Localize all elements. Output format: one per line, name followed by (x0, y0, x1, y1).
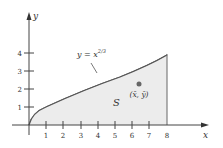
plot: 1 2 3 4 5 6 7 8 1 2 3 4 y x y = x2/3 S (… (0, 0, 223, 148)
svg-text:3: 3 (18, 68, 22, 76)
y-tick-labels: 1 2 3 4 (18, 50, 23, 112)
svg-text:6: 6 (130, 132, 135, 140)
svg-text:3: 3 (79, 132, 83, 140)
svg-text:8: 8 (165, 132, 169, 140)
svg-text:4: 4 (18, 50, 23, 58)
x-axis-arrow-icon (201, 123, 209, 128)
svg-text:4: 4 (96, 132, 101, 140)
centroid-label: (x̄, ȳ) (129, 90, 148, 99)
svg-text:1: 1 (44, 132, 48, 140)
x-tick-labels: 1 2 3 4 5 6 7 8 (44, 132, 169, 140)
svg-text:2: 2 (18, 86, 22, 94)
x-axis-label: x (203, 130, 208, 140)
svg-text:5: 5 (113, 132, 117, 140)
centroid-point (137, 82, 142, 87)
svg-text:2: 2 (61, 132, 65, 140)
region-label: S (113, 97, 120, 108)
curve-label-pointer (91, 63, 97, 73)
svg-text:1: 1 (18, 104, 22, 112)
y-axis-arrow-icon (27, 12, 32, 20)
y-axis-label: y (32, 11, 39, 21)
svg-text:7: 7 (147, 132, 151, 140)
curve-label: y = x2/3 (76, 48, 106, 59)
